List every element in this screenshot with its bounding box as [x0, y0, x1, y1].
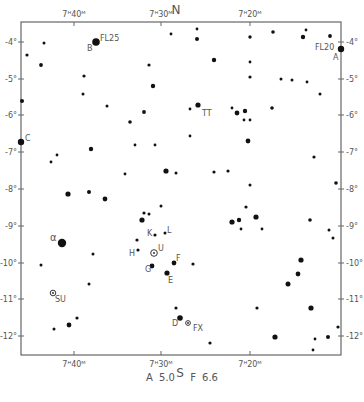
star-dot-icon — [248, 35, 251, 38]
star-dot-icon — [142, 110, 146, 114]
star-label: C — [25, 134, 31, 143]
star-dot-icon — [128, 120, 132, 124]
star-dot-icon — [75, 316, 78, 319]
star-dot-icon — [154, 144, 157, 147]
star-label: FX — [193, 324, 204, 333]
star-dot-icon — [88, 283, 91, 286]
star-dot-icon — [39, 63, 43, 67]
legend-label: A — [146, 372, 153, 383]
chart-frame — [21, 22, 341, 355]
star-label: TT — [201, 109, 212, 118]
dec-tick-label: -5° — [346, 75, 358, 84]
star-dot-icon — [43, 42, 46, 45]
star-dot-icon — [243, 109, 247, 113]
star-dot-icon — [249, 184, 252, 187]
star-dot-icon — [92, 38, 100, 46]
dec-tick-label: -9° — [346, 222, 358, 231]
star-label: D — [172, 319, 178, 328]
star-dot-icon — [248, 75, 251, 78]
star-label: FL20 — [315, 43, 334, 52]
legend-item-f: F 6.6 — [190, 372, 218, 383]
star-dot-icon — [67, 323, 72, 328]
ra-ticks-top: 7ᴴ40ᴹ7ᴴ30ᴹ7ᴴ20ᴹ — [62, 10, 261, 26]
ra-tick-label: 7ᴴ40ᴹ — [62, 360, 85, 369]
legend-label: F — [190, 372, 196, 383]
star-dot-icon — [237, 218, 241, 222]
star-dot-icon — [82, 93, 85, 96]
star-dot-icon — [134, 144, 137, 147]
star-dot-icon — [255, 306, 258, 309]
ra-tick-label: 7ᴴ20ᴹ — [238, 360, 261, 369]
star-dot-icon — [170, 33, 173, 36]
star-dot-icon — [308, 305, 313, 310]
star-dot-icon — [147, 63, 150, 66]
legend-value: 5.0 — [159, 372, 175, 383]
star-dot-icon — [244, 205, 247, 208]
star-dot-icon — [163, 168, 168, 173]
star-dot-icon — [253, 214, 258, 219]
star-dot-icon — [261, 228, 264, 231]
dec-tick-label: -6° — [5, 111, 17, 120]
legend-item-a: A 5.0 — [146, 372, 178, 383]
star-dot-icon — [135, 238, 138, 241]
star-label: E — [168, 276, 173, 285]
star-dot-icon — [175, 172, 178, 175]
star-dot-icon — [18, 139, 24, 145]
star-label: B — [87, 44, 93, 53]
star-dot-icon — [328, 34, 332, 38]
star-chart: N S 7ᴴ40ᴹ7ᴴ30ᴹ7ᴴ20ᴹ 7ᴴ40ᴹ7ᴴ30ᴹ7ᴴ20ᴹ -4°-… — [0, 0, 364, 402]
star-dot-icon — [139, 217, 144, 222]
ra-tick-label: 7ᴴ40ᴹ — [62, 10, 85, 19]
dec-tick-label: -8° — [346, 185, 358, 194]
star-dot-icon — [231, 107, 234, 110]
star-dot-icon — [312, 155, 315, 158]
star-label: FL25 — [100, 34, 119, 43]
star-dot-icon — [336, 325, 339, 328]
dec-tick-label: -6° — [346, 111, 358, 120]
star-dot-icon — [314, 338, 317, 341]
star-dot-icon — [174, 306, 177, 309]
star-dot-icon — [124, 173, 127, 176]
star-dot-icon — [305, 29, 308, 32]
star-dot-icon — [308, 218, 312, 222]
star-label: L — [167, 226, 172, 235]
star-dot-icon — [189, 135, 192, 138]
star-dot-icon — [298, 257, 303, 262]
legend-value: 6.6 — [202, 372, 218, 383]
star-dot-icon — [153, 233, 156, 236]
star-dot-icon — [280, 78, 283, 81]
star-dot-icon — [58, 239, 66, 247]
ra-tick-label: 7ᴴ30ᴹ — [149, 360, 172, 369]
star-dot-icon — [189, 108, 192, 111]
star-dot-icon — [65, 191, 70, 196]
dec-tick-label: -7° — [5, 148, 17, 157]
star-dot-icon — [240, 228, 243, 231]
star-dot-icon — [338, 46, 344, 52]
star-dot-icon — [20, 99, 24, 103]
star-dot-icon — [319, 93, 322, 96]
star-dot-icon — [249, 119, 252, 122]
dec-tick-label: -8° — [5, 185, 17, 194]
star-dot-icon — [208, 341, 211, 344]
star-dot-icon — [195, 102, 200, 107]
variable-star-center — [153, 252, 155, 254]
star-dot-icon — [306, 81, 309, 84]
variable-star-center — [52, 292, 54, 294]
dec-tick-label: -11° — [346, 295, 363, 304]
star-dot-icon — [191, 262, 194, 265]
star-dot-icon — [212, 170, 215, 173]
dec-tick-label: -10° — [0, 259, 17, 268]
dec-tick-label: -4° — [346, 38, 358, 47]
dec-tick-label: -7° — [346, 148, 358, 157]
star-dot-icon — [148, 213, 151, 216]
star-dot-icon — [249, 61, 252, 64]
star-dot-icon — [92, 253, 95, 256]
star-dot-icon — [89, 147, 93, 151]
star-dot-icon — [296, 272, 301, 277]
star-dot-icon — [271, 30, 275, 34]
dec-tick-label: -4° — [5, 38, 17, 47]
star-dot-icon — [56, 154, 59, 157]
star-label: U — [158, 244, 164, 253]
star-dot-icon — [243, 119, 246, 122]
star-label: K — [147, 229, 153, 238]
